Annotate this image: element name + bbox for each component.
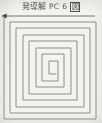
caption-boxed-character: 図 <box>70 2 80 12</box>
spiral-svg <box>0 12 102 123</box>
caption-latin-label: PC <box>49 2 59 11</box>
spiral-figure <box>0 12 102 123</box>
caption-figure-number: 6 <box>62 2 67 11</box>
figure-page: 発導解 PC 6 図 <box>0 0 102 123</box>
caption-cjk-text: 発導解 <box>22 2 46 11</box>
square-spiral-path <box>4 16 96 119</box>
